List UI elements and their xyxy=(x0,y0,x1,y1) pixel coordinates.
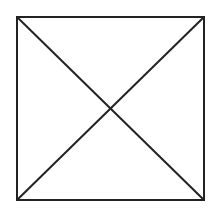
diagram-canvas xyxy=(0,0,212,209)
